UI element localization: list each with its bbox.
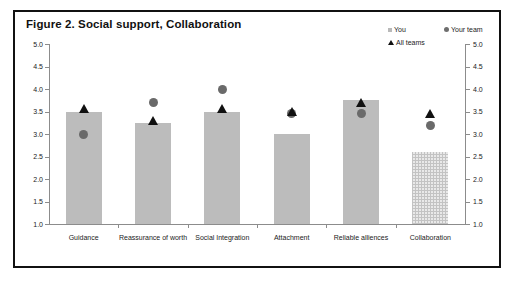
x-axis-tick xyxy=(257,224,258,228)
y-axis-left-tick xyxy=(45,202,49,203)
y-axis-right-tick xyxy=(466,112,470,113)
y-axis-right-tick xyxy=(466,67,470,68)
y-axis-right-tick-label: 3.0 xyxy=(473,131,491,138)
bar-5 xyxy=(412,152,448,224)
y-axis-left-tick xyxy=(45,134,49,135)
y-axis-left-tick-label: 4.0 xyxy=(26,86,43,93)
x-axis-label-2: Social Integration xyxy=(188,234,257,243)
chart-plot-area: 5.04.54.03.53.02.52.01.51.0 5.04.54.03.5… xyxy=(15,12,503,270)
y-axis-right-tick xyxy=(466,224,470,225)
y-axis-right-tick xyxy=(466,134,470,135)
all-teams-point-0 xyxy=(79,104,89,113)
x-axis-label-3: Attachment xyxy=(257,234,326,243)
x-axis-label-4: Reliable alliences xyxy=(326,234,395,243)
y-axis-left-tick-label: 2.0 xyxy=(26,176,43,183)
bar-1 xyxy=(135,123,171,224)
y-axis-right-tick-label: 3.5 xyxy=(473,108,491,115)
x-axis-label-0: Guidance xyxy=(49,234,118,243)
y-axis-left-tick-label: 3.0 xyxy=(26,131,43,138)
x-axis-tick xyxy=(396,224,397,228)
y-axis-left-tick-label: 5.0 xyxy=(26,41,43,48)
y-axis-left-tick xyxy=(45,89,49,90)
y-axis-right-tick xyxy=(466,179,470,180)
y-axis-left-tick xyxy=(45,44,49,45)
y-axis-left-tick-label: 2.5 xyxy=(26,153,43,160)
y-axis-right-tick-label: 2.0 xyxy=(473,176,491,183)
bar-2 xyxy=(204,112,240,225)
y-axis-left-tick xyxy=(45,112,49,113)
your-team-point-2 xyxy=(218,85,227,94)
x-axis-label-5: Collaboration xyxy=(396,234,465,243)
y-axis-right-tick-label: 5.0 xyxy=(473,41,491,48)
bar-4 xyxy=(343,100,379,224)
your-team-point-5 xyxy=(426,121,435,130)
y-axis-right-tick xyxy=(466,157,470,158)
y-axis-right-tick xyxy=(466,44,470,45)
all-teams-point-4 xyxy=(356,98,366,107)
y-axis-right-tick-label: 4.5 xyxy=(473,63,491,70)
y-axis-left-tick xyxy=(45,224,49,225)
y-axis-right-tick-label: 1.0 xyxy=(473,221,491,228)
y-axis-left-tick-label: 3.5 xyxy=(26,108,43,115)
y-axis-right-tick-label: 1.5 xyxy=(473,198,491,205)
y-axis-left-tick-label: 4.5 xyxy=(26,63,43,70)
y-axis-right-tick xyxy=(466,89,470,90)
x-axis-tick xyxy=(188,224,189,228)
bar-3 xyxy=(274,134,310,224)
x-axis-label-1: Reassurance of worth xyxy=(118,234,187,243)
x-axis-tick xyxy=(118,224,119,228)
x-axis-tick xyxy=(326,224,327,228)
y-axis-left-tick xyxy=(45,157,49,158)
all-teams-point-2 xyxy=(217,104,227,113)
your-team-point-1 xyxy=(149,98,158,107)
bar-0 xyxy=(66,112,102,225)
y-axis-left-tick xyxy=(45,67,49,68)
y-axis-left-tick-label: 1.5 xyxy=(26,198,43,205)
your-team-point-0 xyxy=(79,130,88,139)
all-teams-point-3 xyxy=(287,107,297,116)
y-axis-left-tick-label: 1.0 xyxy=(26,221,43,228)
all-teams-point-5 xyxy=(425,109,435,118)
figure-frame: Figure 2. Social support, Collaboration … xyxy=(13,10,501,268)
y-axis-left-tick xyxy=(45,179,49,180)
y-axis-right-tick-label: 4.0 xyxy=(473,86,491,93)
y-axis-left-line xyxy=(49,44,50,225)
all-teams-point-1 xyxy=(148,116,158,125)
y-axis-right-tick xyxy=(466,202,470,203)
your-team-point-4 xyxy=(357,109,366,118)
y-axis-right-tick-label: 2.5 xyxy=(473,153,491,160)
